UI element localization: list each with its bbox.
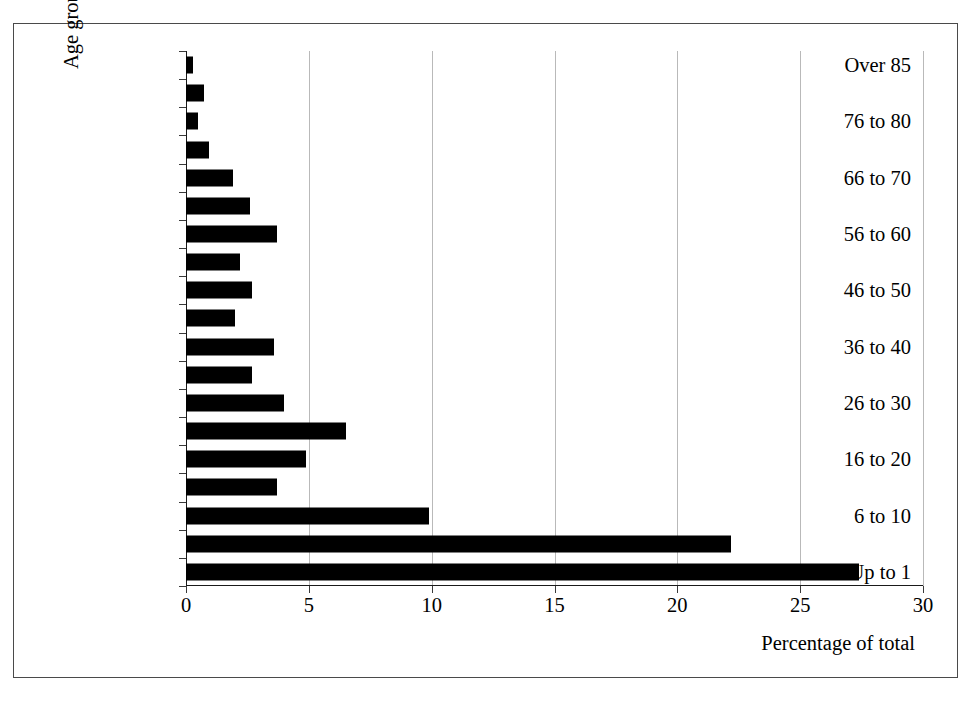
x-tick-10 bbox=[432, 586, 433, 593]
y-tick bbox=[179, 79, 186, 80]
y-tick bbox=[179, 164, 186, 165]
bar-row bbox=[186, 135, 923, 163]
bar-row bbox=[186, 445, 923, 473]
bar-row bbox=[186, 333, 923, 361]
plot-area: Over 8576 to 8066 to 7056 to 6046 to 503… bbox=[186, 51, 923, 586]
bar bbox=[186, 338, 274, 355]
y-tick bbox=[179, 445, 186, 446]
bar bbox=[186, 535, 731, 552]
x-tick-label-10: 10 bbox=[402, 595, 462, 616]
y-tick bbox=[179, 333, 186, 334]
bar bbox=[186, 113, 198, 130]
y-tick bbox=[179, 530, 186, 531]
bar-row bbox=[186, 220, 923, 248]
bar bbox=[186, 282, 252, 299]
bar-row bbox=[186, 79, 923, 107]
y-tick bbox=[179, 361, 186, 362]
bar bbox=[186, 423, 346, 440]
bar-row bbox=[186, 530, 923, 558]
y-tick bbox=[179, 473, 186, 474]
x-tick-30 bbox=[923, 586, 924, 593]
x-tick-20 bbox=[677, 586, 678, 593]
y-tick bbox=[179, 558, 186, 559]
bar bbox=[186, 563, 859, 580]
bar bbox=[186, 226, 277, 243]
bar bbox=[186, 507, 429, 524]
y-tick bbox=[179, 107, 186, 108]
bar-row bbox=[186, 389, 923, 417]
bar-row bbox=[186, 361, 923, 389]
bar-row bbox=[186, 473, 923, 501]
y-tick bbox=[179, 502, 186, 503]
bar bbox=[186, 394, 284, 411]
chart-figure: Age group (years old) Over 8576 to 8066 … bbox=[13, 23, 958, 678]
bar-row bbox=[186, 502, 923, 530]
x-tick-label-25: 25 bbox=[770, 595, 830, 616]
y-tick bbox=[179, 586, 186, 587]
bar bbox=[186, 451, 306, 468]
bar bbox=[186, 141, 209, 158]
bar-row bbox=[186, 304, 923, 332]
bar-row bbox=[186, 417, 923, 445]
x-tick-15 bbox=[555, 586, 556, 593]
x-tick-label-15: 15 bbox=[525, 595, 585, 616]
y-tick bbox=[179, 389, 186, 390]
y-tick bbox=[179, 248, 186, 249]
bar bbox=[186, 366, 252, 383]
x-tick-25 bbox=[800, 586, 801, 593]
bar bbox=[186, 197, 250, 214]
bar-row bbox=[186, 107, 923, 135]
bar bbox=[186, 254, 240, 271]
y-axis-title-container: Age group (years old) bbox=[66, 64, 92, 364]
bar bbox=[186, 169, 233, 186]
x-tick-label-0: 0 bbox=[156, 595, 216, 616]
bar-row bbox=[186, 276, 923, 304]
y-tick bbox=[179, 304, 186, 305]
bar-row bbox=[186, 192, 923, 220]
y-tick bbox=[179, 417, 186, 418]
y-tick bbox=[179, 51, 186, 52]
x-tick-label-30: 30 bbox=[893, 595, 953, 616]
bar bbox=[186, 310, 235, 327]
bar-row bbox=[186, 51, 923, 79]
x-tick-label-20: 20 bbox=[647, 595, 707, 616]
bar-row bbox=[186, 164, 923, 192]
y-axis-title: Age group (years old) bbox=[60, 0, 83, 69]
y-tick bbox=[179, 276, 186, 277]
bar-row bbox=[186, 558, 923, 586]
y-tick bbox=[179, 135, 186, 136]
y-tick bbox=[179, 220, 186, 221]
bar-row bbox=[186, 248, 923, 276]
bar bbox=[186, 479, 277, 496]
y-tick bbox=[179, 192, 186, 193]
gridline-x-30 bbox=[923, 51, 924, 586]
x-tick-label-5: 5 bbox=[279, 595, 339, 616]
x-tick-0 bbox=[186, 586, 187, 593]
bar bbox=[186, 57, 193, 74]
x-tick-5 bbox=[309, 586, 310, 593]
bar bbox=[186, 85, 204, 102]
x-axis-title: Percentage of total bbox=[761, 632, 915, 655]
